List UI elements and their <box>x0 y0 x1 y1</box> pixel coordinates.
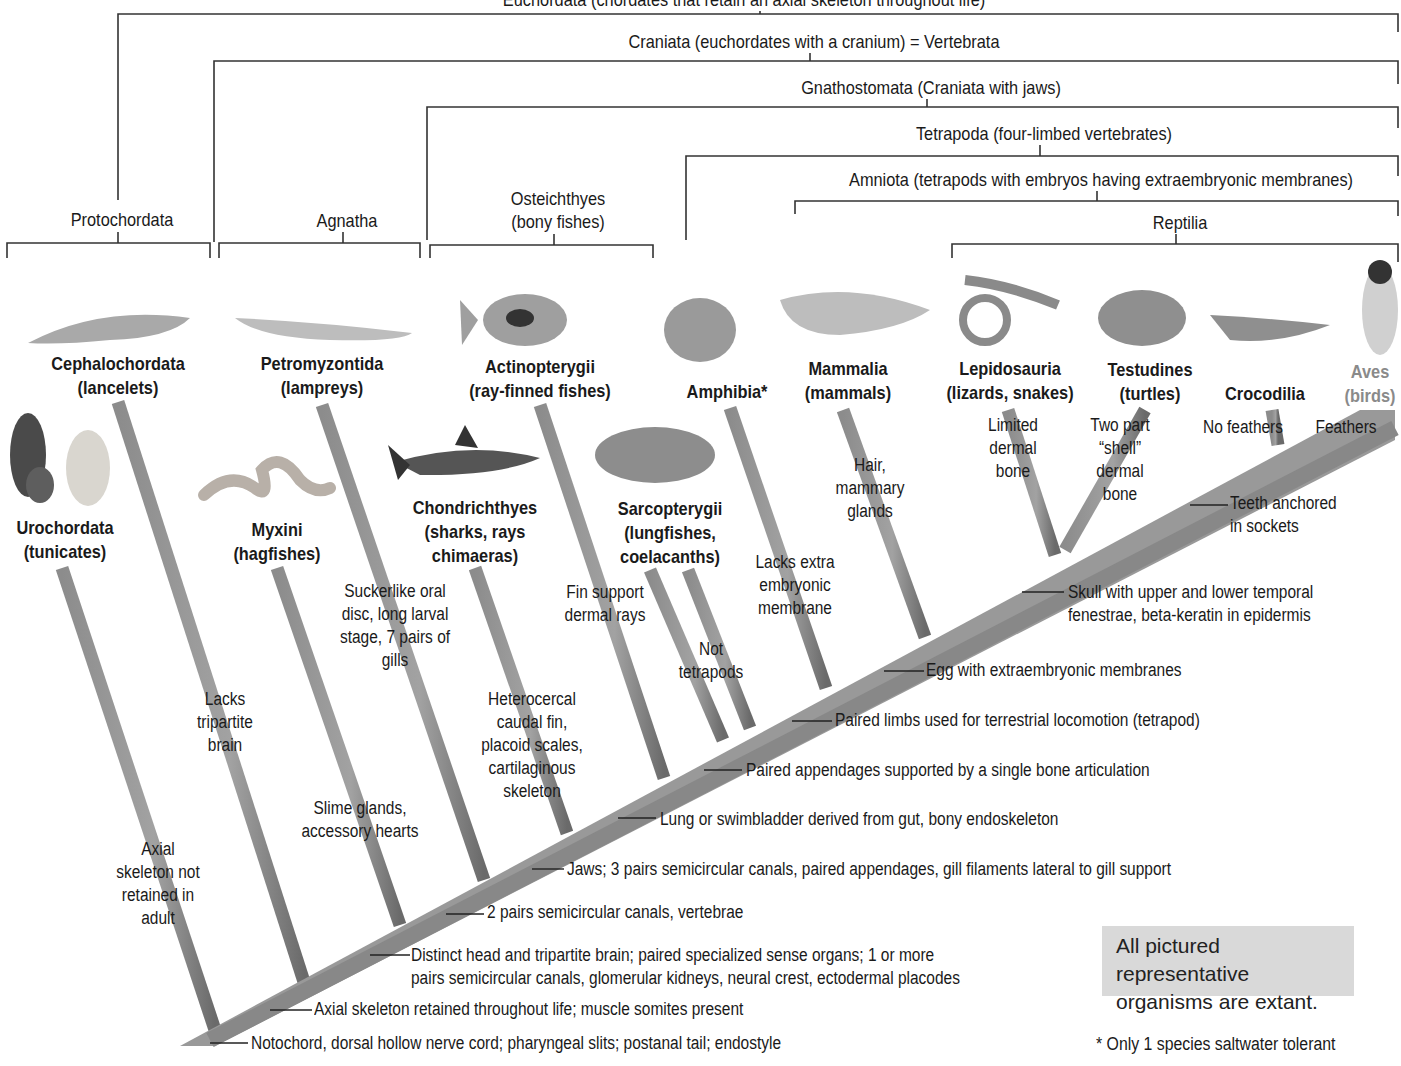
character-skull-fenestrae: Skull with upper and lower temporalfenes… <box>1068 581 1313 627</box>
note-testudines: Two part“shell”dermalbone <box>1084 414 1156 506</box>
callout-line-2: organisms are extant. <box>1116 988 1354 1016</box>
callout-box: All pictured representative organisms ar… <box>1102 926 1354 996</box>
taxon-aves: Aves(birds) <box>1340 360 1400 408</box>
whale-illustration <box>780 292 930 335</box>
frog-illustration <box>664 298 736 362</box>
group-label-agnatha: Agnatha <box>296 209 397 232</box>
character-teeth-sockets: Teeth anchoredin sockets <box>1230 492 1337 538</box>
clade-label-reptilia: Reptilia <box>1134 211 1227 234</box>
clade-label-craniata: Craniata (euchordates with a cranium) = … <box>596 30 1033 53</box>
coelacanth-illustration <box>595 427 715 483</box>
clade-label-gnathostomata: Gnathostomata (Craniata with jaws) <box>756 76 1107 99</box>
note-urochordata: Axialskeleton notretained inadult <box>115 838 201 930</box>
hagfish-illustration <box>204 462 330 495</box>
lamprey-illustration <box>235 318 412 340</box>
taxon-myxini: Myxini(hagfishes) <box>230 518 325 566</box>
character-egg: Egg with extraembryonic membranes <box>926 659 1182 682</box>
taxon-mammalia: Mammalia(mammals) <box>796 357 899 405</box>
character-axial-skeleton: Axial skeleton retained throughout life;… <box>314 998 743 1021</box>
taxon-petromyzontida: Petromyzontida(lampreys) <box>245 352 400 400</box>
tunicate-illustration <box>10 413 110 506</box>
taxon-actinopterygii: Actinopterygii(ray-finned fishes) <box>463 355 618 403</box>
note-myxini: Slime glands,accessory hearts <box>291 797 429 843</box>
clade-label-tetrapoda: Tetrapoda (four-limbed vertebrates) <box>886 122 1202 145</box>
crocodile-illustration <box>1210 315 1330 341</box>
taxon-urochordata: Urochordata(tunicates) <box>9 516 121 564</box>
character-2-pairs-canals: 2 pairs semicircular canals, vertebrae <box>487 901 743 924</box>
lancelet-illustration <box>28 315 190 344</box>
note-actinopterygii: Fin supportdermal rays <box>558 581 653 627</box>
note-cephalochordata: Lackstripartitebrain <box>186 688 263 757</box>
note-amphibia: Lacks extraembryonicmembrane <box>752 551 838 620</box>
character-distinct-head: Distinct head and tripartite brain; pair… <box>411 944 960 990</box>
character-paired-limbs: Paired limbs used for terrestrial locomo… <box>835 709 1200 732</box>
note-aves: Feathers <box>1312 416 1381 439</box>
turtle-illustration <box>1098 290 1186 346</box>
bird-illustration <box>1362 260 1398 355</box>
character-notochord: Notochord, dorsal hollow nerve cord; pha… <box>251 1032 781 1055</box>
footnote: * Only 1 species saltwater tolerant <box>1096 1034 1335 1055</box>
note-mammalia: Hair,mammaryglands <box>836 454 905 523</box>
character-jaws: Jaws; 3 pairs semicircular canals, paire… <box>567 858 1171 881</box>
taxon-lepidosauria: Lepidosauria(lizards, snakes) <box>937 357 1083 405</box>
callout-line-1: All pictured representative <box>1116 932 1354 988</box>
taxon-amphibia: Amphibia* <box>675 380 778 404</box>
note-sarcopterygii: Nottetrapods <box>672 638 749 684</box>
taxon-cephalochordata: Cephalochordata(lancelets) <box>41 352 196 400</box>
character-paired-appendages: Paired appendages supported by a single … <box>746 759 1150 782</box>
note-crocodilia: No feathers <box>1197 416 1288 439</box>
taxon-crocodilia: Crocodilia <box>1218 382 1313 406</box>
rayfinned-fish-illustration <box>460 294 567 346</box>
taxon-testudines: Testudines(turtles) <box>1098 358 1201 406</box>
clade-label-euchordata: Euchordata (chordates that retain an axi… <box>474 0 1014 11</box>
lizard-snake-illustration <box>963 280 1058 342</box>
taxon-sarcopterygii: Sarcopterygii(lungfishes,coelacanths) <box>610 497 730 569</box>
note-lepidosauria: Limiteddermalbone <box>980 414 1045 483</box>
group-label-osteichthyes: Osteichthyes (bony fishes) <box>494 187 621 233</box>
taxon-chondrichthyes: Chondrichthyes(sharks, rayschimaeras) <box>411 496 540 568</box>
cladogram: Euchordata (chordates that retain an axi… <box>0 0 1401 1066</box>
note-chondrichthyes: Heterocercalcaudal fin,placoid scales,ca… <box>479 688 586 803</box>
character-lung: Lung or swimbladder derived from gut, bo… <box>660 808 1058 831</box>
shark-illustration <box>388 425 540 480</box>
clade-label-amniota: Amniota (tetrapods with embryos having e… <box>808 168 1395 191</box>
note-petromyzontida: Suckerlike oraldisc, long larvalstage, 7… <box>339 580 451 672</box>
group-label-protochordata: Protochordata <box>58 208 185 231</box>
